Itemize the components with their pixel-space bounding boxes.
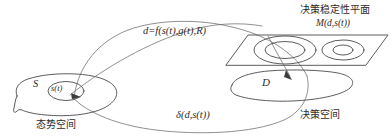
set-s-label: S — [33, 79, 38, 90]
stability-plane-measure-label: M(d,s(t)) — [316, 19, 350, 29]
state-st-label: s(t) — [51, 84, 62, 93]
diagram-canvas: d=f(s(t),g(t),R) δ(d,s(t)) 决策稳定性平面 M(d,s… — [0, 0, 392, 140]
decision-space-blob — [231, 70, 353, 101]
arrow-into-decision — [284, 70, 292, 80]
plane-region-inner-left — [265, 42, 305, 59]
mapping-arc-lower — [80, 76, 308, 133]
plane-region-outer-right — [322, 40, 364, 60]
stability-plane-title-label: 决策稳定性平面 — [300, 5, 370, 15]
formula-top-label: d=f(s(t),g(t),R) — [143, 26, 206, 37]
situation-space-blob — [14, 74, 117, 116]
arrow-into-state — [71, 93, 81, 99]
set-d-label: D — [262, 77, 270, 88]
situation-space-caption: 态势空间 — [36, 120, 76, 130]
plane-region-outer-left — [254, 36, 316, 64]
plane-region-inner-right — [333, 45, 353, 55]
decision-space-caption: 决策空间 — [300, 110, 340, 120]
formula-bottom-label: δ(d,s(t)) — [176, 110, 210, 121]
